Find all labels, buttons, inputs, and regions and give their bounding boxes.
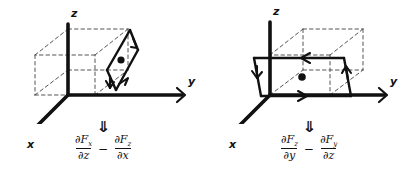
field-subscript-num-1: z	[294, 140, 298, 148]
variable-den-2: z	[329, 149, 335, 162]
figure-root: z y x ⇓ ∂Fx ∂z − ∂Fz	[0, 0, 412, 172]
variable-den-1: z	[83, 149, 89, 162]
loop-center-dot	[298, 73, 306, 81]
field-subscript-num-2: y	[333, 140, 337, 148]
formula-term-1: ∂Fx ∂z	[72, 134, 95, 162]
right-formula-block: ⇓ ∂Fz ∂y − ∂Fy ∂z	[206, 122, 412, 172]
formula-term-1: ∂Fz ∂y	[278, 134, 301, 162]
formula-term-2: ∂Fy ∂z	[317, 134, 340, 162]
field-subscript-num-1: x	[88, 140, 92, 148]
double-down-arrow: ⇓	[302, 122, 316, 133]
field-subscript-num-2: z	[128, 140, 132, 148]
left-formula-block: ⇓ ∂Fx ∂z − ∂Fz ∂x	[0, 122, 206, 172]
field-symbol-num-1: F	[286, 133, 294, 146]
field-symbol-num-2: F	[120, 133, 128, 146]
variable-den-2: x	[122, 149, 128, 162]
y-axis-label: y	[188, 76, 195, 87]
field-symbol-num-1: F	[81, 133, 89, 146]
curl-component-formula: ∂Fz ∂y − ∂Fy ∂z	[278, 134, 340, 162]
minus-operator: −	[301, 142, 317, 156]
right-diagram-drawing	[206, 0, 412, 124]
x-axis	[22, 95, 68, 124]
loop-arrow-down-left	[252, 66, 262, 78]
minus-operator: −	[95, 142, 111, 156]
z-axis-label: z	[71, 8, 77, 19]
variable-den-1: y	[289, 149, 295, 162]
x-axis	[224, 95, 270, 124]
left-diagram-drawing	[0, 0, 206, 124]
formula-term-2: ∂Fz ∂x	[111, 134, 134, 162]
curl-y-component-panel: z y x ⇓ ∂Fx ∂z − ∂Fz	[0, 0, 206, 172]
double-down-arrow: ⇓	[96, 122, 110, 133]
z-axis-label: z	[273, 6, 279, 17]
y-axis-label: y	[390, 76, 397, 87]
curl-x-component-panel: z y x ⇓ ∂Fz ∂y − ∂Fy	[206, 0, 412, 172]
loop-arrow-up	[131, 38, 137, 48]
loop-center-dot	[117, 56, 124, 63]
curl-component-formula: ∂Fx ∂z − ∂Fz ∂x	[72, 134, 134, 162]
